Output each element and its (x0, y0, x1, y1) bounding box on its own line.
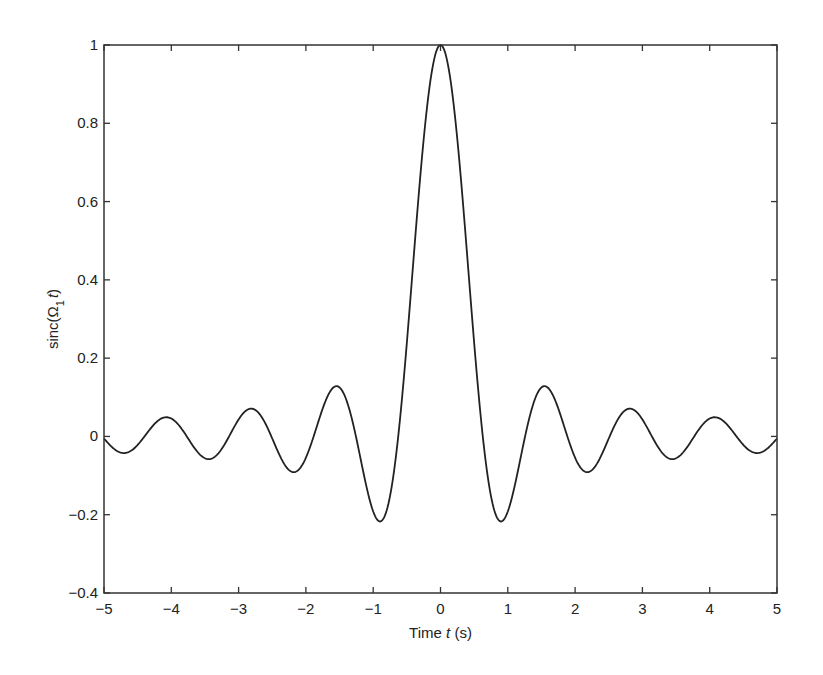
x-tick-label: −5 (95, 600, 112, 617)
x-tick-label: −2 (297, 600, 314, 617)
y-tick-label: 0 (90, 427, 98, 444)
x-axis-label: Time t (s) (409, 624, 472, 641)
y-axis-ticks: −0.4−0.200.20.40.60.81 (68, 36, 777, 601)
x-axis-ticks: −5−4−3−2−1012345 (95, 45, 781, 617)
x-tick-label: 1 (504, 600, 512, 617)
x-tick-label: −1 (365, 600, 382, 617)
x-tick-label: −3 (230, 600, 247, 617)
y-tick-label: 0.6 (77, 193, 98, 210)
y-tick-label: 1 (90, 36, 98, 53)
y-tick-label: 0.2 (77, 349, 98, 366)
sinc-curve (104, 45, 777, 521)
x-tick-label: −4 (163, 600, 180, 617)
y-tick-label: −0.2 (68, 506, 98, 523)
sinc-line-chart: −5−4−3−2−1012345 −0.4−0.200.20.40.60.81 … (0, 0, 823, 675)
plot-frame (104, 45, 777, 593)
y-axis-label: sinc(Ω1t) (44, 289, 66, 349)
x-tick-label: 4 (706, 600, 714, 617)
y-tick-label: 0.4 (77, 271, 98, 288)
x-tick-label: 0 (436, 600, 444, 617)
x-tick-label: 2 (571, 600, 579, 617)
x-tick-label: 5 (773, 600, 781, 617)
x-tick-label: 3 (638, 600, 646, 617)
y-tick-label: 0.8 (77, 114, 98, 131)
y-tick-label: −0.4 (68, 584, 98, 601)
